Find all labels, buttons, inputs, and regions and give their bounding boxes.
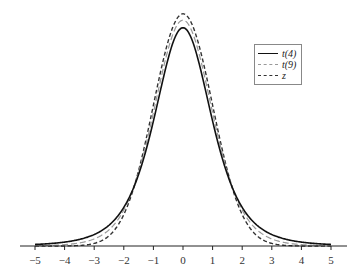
x-tick-label: −1 [148,254,160,266]
density-chart: −5−4−3−2−1012345 [0,0,364,276]
short-dash-swatch-icon [258,75,278,76]
solid-line-swatch-icon [258,53,278,54]
x-tick-label: 0 [180,254,186,266]
legend-label: t(9) [282,59,296,70]
legend-item-z: z [258,70,298,81]
x-tick-label: 5 [328,254,334,266]
long-dash-swatch-icon [258,64,278,65]
x-tick-label: 1 [210,254,216,266]
x-tick-label: 4 [299,254,305,266]
x-tick-label: −3 [88,254,100,266]
legend: t(4) t(9) z [254,44,302,85]
x-tick-label: −4 [59,254,71,266]
x-tick-label: −2 [118,254,130,266]
legend-label: z [282,70,286,81]
legend-item-t4: t(4) [258,48,298,59]
legend-item-t9: t(9) [258,59,298,70]
x-tick-label: −5 [29,254,41,266]
x-tick-label: 2 [239,254,245,266]
x-tick-label: 3 [269,254,275,266]
x-ticks: −5−4−3−2−1012345 [29,246,334,266]
legend-label: t(4) [282,48,296,59]
